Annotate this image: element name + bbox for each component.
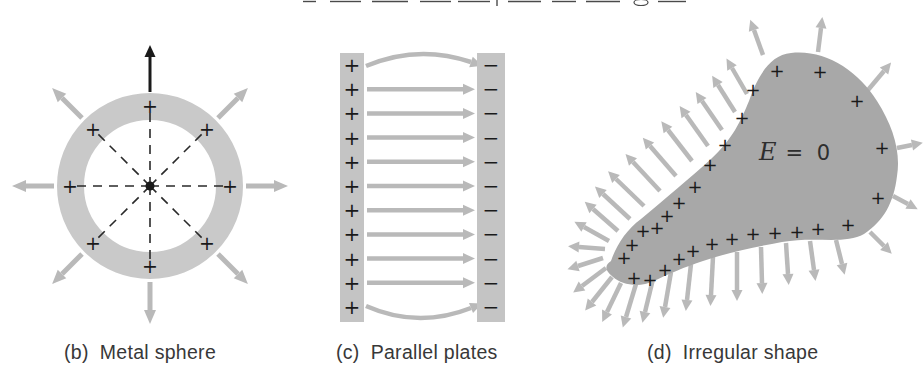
field-arrow — [616, 179, 644, 206]
field-arrow — [62, 254, 82, 274]
caption-irregular-shape: (d)Irregular shape — [647, 341, 818, 364]
field-arrow-head — [640, 311, 651, 323]
plus-charge: + — [702, 154, 717, 175]
plus-charge: + — [767, 222, 782, 243]
caption-metal-sphere: (b)Metal sphere — [64, 341, 216, 364]
caption-prefix-d: (d) — [647, 341, 672, 363]
minus-charge: − — [483, 53, 500, 77]
plus-charge: + — [870, 187, 885, 208]
field-arrow — [218, 254, 238, 274]
plus-charge: + — [85, 118, 101, 140]
field-arrow — [818, 28, 821, 52]
plus-charge: + — [344, 247, 361, 271]
field-arrow — [786, 243, 788, 274]
field-arrow-head — [568, 261, 580, 271]
minus-charge: − — [483, 295, 500, 319]
field-value: = 0 — [786, 141, 831, 165]
plus-charge: + — [199, 232, 215, 254]
plus-charge: + — [142, 255, 158, 277]
caption-text-b: Metal sphere — [100, 341, 216, 363]
plus-charge: + — [142, 95, 158, 117]
field-arrow — [702, 101, 722, 130]
plus-charge: + — [812, 61, 827, 82]
field-arrow — [687, 264, 691, 300]
field-arrow — [868, 71, 884, 90]
minus-charge: − — [483, 271, 500, 295]
plus-charge: + — [874, 137, 889, 158]
field-zero-label: E= 0 — [759, 138, 830, 166]
field-arrow-head — [757, 283, 768, 294]
plus-charge: + — [344, 150, 361, 174]
plus-charge: + — [704, 233, 719, 254]
field-arrow-head — [463, 84, 475, 95]
plus-charge: + — [344, 198, 361, 222]
field-arrow — [754, 30, 763, 55]
field-arrow — [62, 98, 82, 118]
field-arrow-head — [809, 269, 820, 281]
field-arrow — [579, 247, 605, 249]
field-arrow-head — [816, 17, 827, 29]
minus-charge: − — [483, 247, 500, 271]
cropped-text-fragment — [634, 0, 648, 6]
field-arrow — [718, 85, 735, 112]
figure-canvas: +++++++++++++++++++−−−−−−−−−−−++++++++++… — [0, 0, 923, 377]
field-arrow — [761, 247, 762, 283]
plus-charge: + — [687, 176, 702, 197]
field-arrow — [582, 268, 606, 286]
field-arrow-head — [463, 229, 475, 240]
field-arrow — [668, 130, 692, 161]
field-arrow — [366, 54, 471, 66]
plus-charge: + — [745, 79, 760, 100]
field-arrow-head — [463, 253, 475, 264]
field-arrow — [626, 284, 636, 317]
field-arrow — [686, 115, 708, 146]
field-arrow-head — [682, 299, 693, 311]
field-arrow-head — [463, 156, 475, 167]
minus-charge: − — [483, 198, 500, 222]
field-arrow — [607, 283, 621, 312]
plus-charge: + — [222, 175, 238, 197]
field-arrow — [893, 196, 908, 204]
plus-charge: + — [685, 240, 700, 261]
plus-charge: + — [344, 222, 361, 246]
plus-charge: + — [616, 247, 631, 268]
plus-charge: + — [769, 60, 784, 81]
minus-charge: − — [483, 222, 500, 246]
plus-charge: + — [789, 221, 804, 242]
plus-charge: + — [671, 248, 686, 269]
plus-charge: + — [734, 107, 749, 128]
field-arrow — [870, 232, 884, 246]
plus-charge: + — [344, 77, 361, 101]
field-arrow-head — [463, 181, 475, 192]
caption-parallel-plates: (c)Parallel plates — [336, 341, 498, 364]
minus-charge: − — [483, 126, 500, 150]
field-arrow-head — [568, 242, 579, 253]
plus-charge: + — [626, 267, 641, 288]
plus-charge: + — [810, 218, 825, 239]
field-arrow-head — [837, 263, 848, 275]
field-arrow — [218, 98, 238, 118]
plus-charge: + — [745, 223, 760, 244]
field-arrow-head — [274, 180, 288, 192]
conductor-field-diagram: +++++++++++++++++++−−−−−−−−−−−++++++++++… — [0, 0, 923, 377]
field-arrow — [592, 277, 612, 302]
field-arrow-head — [145, 45, 156, 57]
minus-charge: − — [483, 101, 500, 125]
dashed-radius — [150, 132, 204, 186]
plus-charge: + — [344, 271, 361, 295]
field-arrow — [593, 209, 618, 231]
field-arrow-head — [463, 132, 475, 143]
field-symbol: E — [759, 138, 777, 166]
field-arrow — [711, 257, 713, 295]
field-arrow-head — [12, 180, 26, 192]
field-arrow-head — [463, 108, 475, 119]
plus-charge: + — [344, 53, 361, 77]
plus-charge: + — [344, 126, 361, 150]
caption-text-c: Parallel plates — [371, 341, 498, 363]
field-arrow — [578, 258, 603, 266]
plus-charge: + — [717, 134, 732, 155]
dashed-radius — [150, 186, 204, 240]
plus-charge: + — [840, 214, 855, 235]
caption-prefix-c: (c) — [336, 341, 360, 363]
field-arrow — [584, 227, 609, 241]
